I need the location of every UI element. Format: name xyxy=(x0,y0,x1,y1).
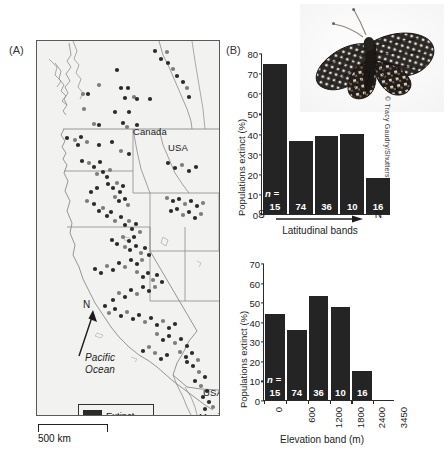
map-point xyxy=(80,159,84,163)
map-point xyxy=(81,92,85,96)
map-point xyxy=(189,199,193,203)
map-point xyxy=(185,344,189,348)
map-point xyxy=(73,138,77,142)
map-point xyxy=(160,280,164,284)
y-tick-mark xyxy=(259,194,263,195)
map-point xyxy=(111,298,115,302)
map-point xyxy=(134,244,138,248)
map-point xyxy=(129,258,133,262)
map-point xyxy=(166,61,170,65)
map-point xyxy=(161,319,165,323)
map-point xyxy=(166,161,170,165)
y-axis-label-elev: Populations extinct (%) xyxy=(238,311,249,408)
chart-elevation-bands: Populations extinct (%) 0102030405060701… xyxy=(226,250,426,450)
map-point xyxy=(135,262,139,266)
sample-size-legend: n = xyxy=(265,188,279,199)
map-point xyxy=(119,314,123,318)
map-point xyxy=(97,83,101,87)
map-point xyxy=(194,165,198,169)
x-tick-label: 1200 xyxy=(333,407,344,428)
y-tick-mark xyxy=(259,74,263,75)
map-point xyxy=(153,351,157,355)
map-point xyxy=(92,165,96,169)
map-point xyxy=(105,264,109,268)
map-point xyxy=(140,258,144,262)
direction-label-south: S xyxy=(258,209,265,220)
x-tick-label: 600 xyxy=(306,407,317,423)
y-tick-mark xyxy=(261,263,265,264)
map-legend: Extinct Extant xyxy=(78,404,154,416)
map-point xyxy=(161,338,165,342)
map-point xyxy=(113,195,117,199)
map-point xyxy=(76,143,80,147)
map-point xyxy=(101,170,105,174)
direction-label-north: N xyxy=(375,209,382,220)
x-tick-label: 3450 xyxy=(398,407,409,428)
map-point xyxy=(97,143,101,147)
map-point xyxy=(110,140,114,144)
north-arrow-icon xyxy=(73,306,101,358)
y-tick-mark xyxy=(261,361,265,362)
map-point xyxy=(123,295,127,299)
map-point xyxy=(155,273,159,277)
map-point xyxy=(86,92,90,96)
map-point xyxy=(187,95,191,99)
map-point xyxy=(141,349,145,353)
map-point xyxy=(211,405,215,409)
map-point xyxy=(190,351,194,355)
map-point xyxy=(180,163,184,167)
map-point xyxy=(187,169,191,173)
latitude-direction-row: S N xyxy=(258,209,382,223)
x-tick-label: 2400 xyxy=(376,407,387,428)
x-axis-label-lat: Latitudinal bands xyxy=(252,225,388,236)
map-point xyxy=(155,323,159,327)
map-label-ocean: Ocean xyxy=(85,364,115,375)
map-point xyxy=(147,345,151,349)
map-point xyxy=(183,202,187,206)
map-point xyxy=(93,267,97,271)
map-point xyxy=(123,265,127,269)
y-tick-mark xyxy=(261,283,265,284)
map-point xyxy=(151,278,155,282)
map-point xyxy=(105,175,109,179)
map-point xyxy=(165,50,169,54)
bar-sample-size: 10 xyxy=(331,387,351,398)
map-point xyxy=(131,317,135,321)
map-point xyxy=(191,364,195,368)
figure-root: (A) xyxy=(0,0,447,462)
map-point xyxy=(148,97,152,101)
x-tick-mark xyxy=(373,400,374,404)
map-point xyxy=(65,136,69,140)
map-point xyxy=(127,239,131,243)
y-tick-mark xyxy=(259,154,263,155)
map-point xyxy=(147,253,151,257)
map-point xyxy=(195,204,199,208)
south-to-north-arrow-icon xyxy=(276,215,364,223)
x-tick-mark xyxy=(264,400,265,404)
scalebar-line xyxy=(38,424,108,432)
map-point xyxy=(165,353,169,357)
map-point xyxy=(113,110,117,114)
map-point xyxy=(196,358,200,362)
map-point xyxy=(101,206,105,210)
map-label-canada: Canada xyxy=(133,126,167,137)
map-point xyxy=(87,161,91,165)
map-label-mexico: Mexico xyxy=(199,411,220,416)
map-point xyxy=(79,135,83,139)
map-point xyxy=(201,201,205,205)
map-point xyxy=(175,74,179,78)
map-point xyxy=(123,197,127,201)
x-tick-label: 1800 xyxy=(355,407,366,428)
map-point xyxy=(199,212,203,216)
map-point xyxy=(139,251,143,255)
map-point xyxy=(169,209,173,213)
map-point xyxy=(143,320,147,324)
map-point xyxy=(153,285,157,289)
y-tick-mark xyxy=(259,174,263,175)
map-point xyxy=(134,222,138,226)
map-point xyxy=(121,121,125,125)
map-point xyxy=(85,199,89,203)
map-point xyxy=(117,199,121,203)
map-point xyxy=(92,202,96,206)
plot-area-elev: 0102030405060701574361016n =060012001800… xyxy=(263,264,394,401)
